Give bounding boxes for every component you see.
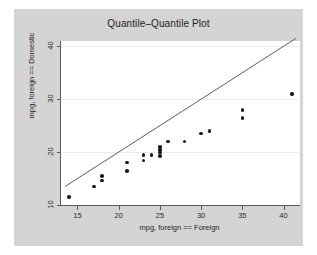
chart-figure: Quantile–Quantile Plot 10203040 15202530… bbox=[14, 9, 303, 246]
x-axis-tick-label: 30 bbox=[197, 211, 205, 220]
data-point bbox=[67, 195, 71, 199]
data-point bbox=[125, 169, 129, 173]
y-axis-tick bbox=[57, 152, 61, 153]
data-point bbox=[100, 174, 104, 178]
x-axis-tick-label: 25 bbox=[156, 211, 164, 220]
data-point bbox=[208, 129, 212, 133]
y-axis-tick-label: 30 bbox=[46, 92, 55, 106]
data-point bbox=[142, 159, 146, 163]
x-axis-tick bbox=[242, 206, 243, 210]
x-axis-tick-label: 40 bbox=[279, 211, 287, 220]
data-point bbox=[142, 153, 146, 157]
data-point bbox=[92, 185, 96, 189]
y-axis-tick-label: 10 bbox=[46, 198, 55, 212]
data-point bbox=[166, 140, 170, 144]
y-axis-tick bbox=[57, 99, 61, 100]
y-axis-tick-label: 40 bbox=[46, 39, 55, 53]
data-point bbox=[100, 179, 104, 183]
data-point bbox=[158, 148, 162, 152]
data-point bbox=[290, 92, 294, 96]
data-point bbox=[241, 108, 245, 112]
data-point bbox=[241, 116, 245, 120]
scatter-points bbox=[61, 41, 300, 205]
x-axis-tick-label: 35 bbox=[238, 211, 246, 220]
data-point bbox=[150, 153, 154, 157]
x-axis-tick bbox=[119, 206, 120, 210]
data-point bbox=[125, 161, 129, 165]
x-axis-label: mpg, foreign == Foreign bbox=[60, 223, 299, 232]
x-axis-tick-label: 20 bbox=[115, 211, 123, 220]
x-axis-tick bbox=[201, 206, 202, 210]
chart-title: Quantile–Quantile Plot bbox=[14, 18, 303, 29]
x-axis-tick-label: 15 bbox=[73, 211, 81, 220]
y-axis-label: mpg, foreign == Domestic bbox=[27, 16, 36, 136]
x-axis-tick bbox=[160, 206, 161, 210]
y-axis-tick-label: 20 bbox=[46, 145, 55, 159]
data-point bbox=[199, 132, 203, 136]
y-axis-tick bbox=[57, 205, 61, 206]
data-point bbox=[183, 140, 187, 144]
data-point bbox=[158, 145, 162, 149]
data-point bbox=[158, 154, 162, 158]
x-axis-tick bbox=[77, 206, 78, 210]
y-axis-tick bbox=[57, 46, 61, 47]
plot-area: 10203040 152025303540 bbox=[60, 41, 300, 206]
x-axis-tick bbox=[284, 206, 285, 210]
